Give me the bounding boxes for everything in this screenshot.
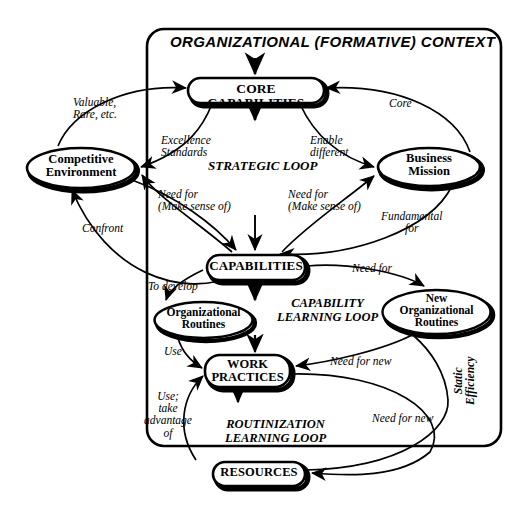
node-core-capabilities[interactable]	[188, 78, 327, 106]
edge-label-to-develop: To develop	[148, 280, 198, 292]
edge-label-confront: Confront	[82, 222, 123, 234]
static-efficiency-label: Static Efficiency	[452, 357, 477, 405]
strategic-loop-label: STRATEGIC LOOP	[208, 159, 317, 173]
edge-label-need-for-make-sense-right: Need for (Make sense of)	[288, 188, 361, 212]
node-organizational-routines[interactable]	[155, 302, 256, 341]
edge-label-use-take-advantage-of: Use; take advantage of	[131, 390, 205, 439]
edge-label-need-for-new-lower: Need for new	[372, 412, 433, 424]
node-new-organizational-routines[interactable]	[383, 290, 494, 337]
use-take-line1: Use;	[131, 390, 205, 402]
use-take-line2: take	[131, 402, 205, 414]
node-competitive-environment[interactable]	[27, 148, 138, 191]
use-take-line3: advantage	[131, 414, 205, 426]
routinization-learning-loop-line1: ROUTINIZATION	[225, 418, 326, 432]
excellence-line1: Excellence	[161, 134, 211, 146]
need-make-sense-right-line2: (Make sense of)	[288, 200, 361, 212]
capability-learning-loop-line1: CAPABILITY	[277, 297, 378, 311]
need-make-sense-left-line2: (Make sense of)	[158, 200, 231, 212]
capability-learning-loop-line2: LEARNING LOOP	[277, 311, 378, 325]
node-resources[interactable]	[213, 462, 308, 489]
node-capabilities[interactable]	[207, 255, 308, 283]
node-business-mission[interactable]	[378, 148, 483, 189]
capability-learning-loop-label: CAPABILITY LEARNING LOOP	[277, 297, 378, 325]
excellence-line2: Standards	[161, 146, 211, 158]
enable-line2: different	[310, 146, 349, 158]
node-work-practices[interactable]	[205, 355, 293, 390]
static-efficiency-line2: Efficiency	[464, 357, 476, 405]
fundamental-line2: for	[381, 222, 442, 234]
edge-label-fundamental-for: Fundamental for	[381, 210, 442, 234]
edge-label-use: Use	[164, 345, 182, 357]
need-make-sense-right-line1: Need for	[288, 188, 361, 200]
need-make-sense-left-line1: Need for	[158, 188, 231, 200]
edge-label-core: Core	[389, 97, 412, 109]
edge-label-excellence-standards: Excellence Standards	[161, 134, 211, 158]
context-title: ORGANIZATIONAL (FORMATIVE) CONTEXT	[170, 33, 495, 50]
valuable-rare-line2: Rare, etc.	[73, 108, 117, 120]
fundamental-line1: Fundamental	[381, 210, 442, 222]
edge-label-need-for: Need for	[352, 262, 392, 274]
valuable-rare-line1: Valuable,	[73, 96, 117, 108]
diagram-canvas: ORGANIZATIONAL (FORMATIVE) CONTEXT CORE …	[0, 0, 528, 518]
enable-line1: Enable	[310, 134, 349, 146]
use-take-line4: of	[131, 427, 205, 439]
edge-label-valuable-rare: Valuable, Rare, etc.	[73, 96, 117, 120]
static-efficiency-line1: Static	[452, 357, 464, 405]
edge-label-need-for-make-sense-left: Need for (Make sense of)	[158, 188, 231, 212]
routinization-learning-loop-line2: LEARNING LOOP	[225, 432, 326, 446]
routinization-learning-loop-label: ROUTINIZATION LEARNING LOOP	[225, 418, 326, 446]
edge-label-need-for-new-upper: Need for new	[330, 355, 391, 367]
edge-label-enable-different: Enable different	[310, 134, 349, 158]
